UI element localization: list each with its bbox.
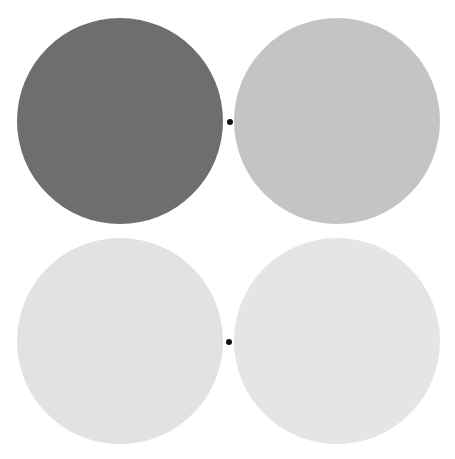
disc-bottom-right (234, 238, 440, 444)
disc-top-left (17, 18, 223, 224)
disc-top-right (234, 18, 440, 224)
disc-bottom-left (17, 238, 223, 444)
fixation-dot-icon (226, 339, 232, 345)
stimulus-canvas (0, 0, 455, 459)
fixation-dot-icon (227, 119, 233, 125)
